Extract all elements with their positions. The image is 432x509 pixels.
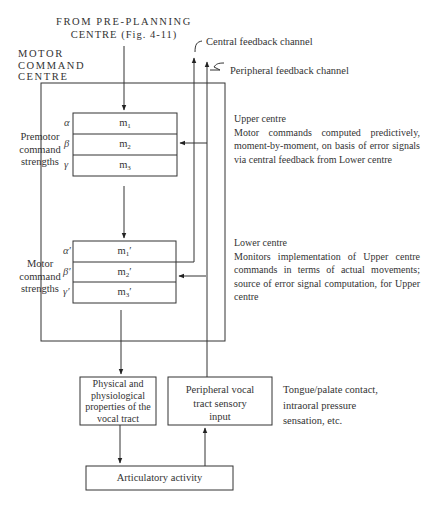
mcc-line1: MOTOR	[18, 48, 85, 60]
sensory-note-line3: sensation, etc.	[283, 413, 378, 429]
sensory-line1: Peripheral vocal	[168, 383, 272, 397]
motor-label: Motor command strengths	[14, 258, 66, 296]
motor-command-centre-label: MOTOR COMMAND CENTRE	[18, 48, 85, 83]
physical-line3: properties of the	[80, 401, 156, 413]
lower-centre-text: Monitors implementation of Upper centre …	[234, 251, 420, 303]
motor-label-line3: strengths	[14, 283, 66, 296]
mcc-line2: COMMAND	[18, 60, 85, 72]
articulatory-activity-box: Articulatory activity	[86, 472, 233, 485]
upper-centre-heading: Upper centre	[234, 112, 420, 126]
motor-cell-m3: m3′	[73, 286, 176, 299]
motor-cell-m1: m1′	[73, 245, 176, 258]
peripheral-feedback-label: Peripheral feedback channel	[230, 64, 349, 77]
greek-gamma-prime: γ′	[63, 286, 69, 297]
from-pre-planning-line1: FROM PRE-PLANNING	[44, 15, 204, 28]
greek-gamma: γ	[64, 159, 68, 170]
sensory-line3: input	[168, 410, 272, 424]
central-feedback-label: Central feedback channel	[206, 35, 313, 48]
upper-centre-text: Motor commands computed predictively, mo…	[234, 127, 420, 165]
lower-centre-heading: Lower centre	[234, 236, 420, 250]
peripheral-leader	[210, 63, 224, 70]
sensory-note-line1: Tongue/palate contact,	[283, 382, 378, 398]
premotor-label-line2: command	[14, 144, 66, 157]
greek-beta: β	[64, 138, 69, 149]
from-pre-planning-label: FROM PRE-PLANNING CENTRE (Fig. 4-11)	[44, 15, 204, 41]
premotor-cell-m2: m2	[73, 138, 177, 151]
greek-alpha: α	[64, 117, 70, 128]
from-pre-planning-line2: CENTRE (Fig. 4-11)	[44, 28, 204, 41]
physical-line1: Physical and	[80, 378, 156, 390]
sensory-note: Tongue/palate contact, intraoral pressur…	[283, 382, 378, 429]
physical-line2: physiological	[80, 390, 156, 402]
motor-cell-m2: m2′	[73, 266, 176, 279]
physical-line4: vocal tract	[80, 413, 156, 425]
premotor-cell-m1: m1	[73, 117, 177, 130]
physical-properties-box: Physical and physiological properties of…	[80, 378, 156, 424]
central-feedback-line	[176, 58, 194, 262]
upper-centre-description: Upper centre Motor commands computed pre…	[234, 112, 420, 166]
sensory-line2: tract sensory	[168, 397, 272, 411]
sensory-input-box: Peripheral vocal tract sensory input	[168, 383, 272, 424]
central-leader	[195, 41, 202, 52]
premotor-cell-m3: m3	[73, 159, 177, 172]
motor-label-line2: command	[14, 271, 66, 284]
sensory-note-line2: intraoral pressure	[283, 398, 378, 414]
premotor-label-line3: strengths	[14, 156, 66, 169]
premotor-label-line1: Premotor	[14, 131, 66, 144]
motor-label-line1: Motor	[14, 258, 66, 271]
greek-beta-prime: β′	[63, 266, 71, 277]
premotor-label: Premotor command strengths	[14, 131, 66, 169]
greek-alpha-prime: α′	[63, 245, 71, 256]
mcc-line3: CENTRE	[18, 71, 85, 83]
lower-centre-description: Lower centre Monitors implementation of …	[234, 236, 420, 304]
